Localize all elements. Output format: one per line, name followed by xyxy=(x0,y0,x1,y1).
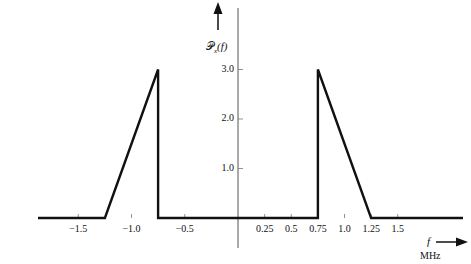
psd-curve xyxy=(38,70,463,219)
y-axis-symbol: 𝒫 xyxy=(206,40,214,52)
y-tick-label: 3.0 xyxy=(194,63,234,74)
x-tick-label: 0.75 xyxy=(309,223,327,234)
x-tick-label: 1.25 xyxy=(362,223,380,234)
x-axis-symbol: f xyxy=(427,235,430,247)
x-tick-label: −0.5 xyxy=(176,223,194,234)
x-tick-label: 1.5 xyxy=(392,223,405,234)
x-tick-label: 0.5 xyxy=(285,223,298,234)
x-axis-unit: MHz xyxy=(420,250,441,261)
x-tick-label: 0.25 xyxy=(256,223,274,234)
y-tick-label: 1.0 xyxy=(194,162,234,173)
y-tick-label: 2.0 xyxy=(194,112,234,123)
y-axis-argument: (f) xyxy=(217,40,227,52)
y-axis-label: 𝒫x(f) xyxy=(206,40,228,55)
x-tick-label: −1.0 xyxy=(122,223,140,234)
x-tick-label: −1.5 xyxy=(69,223,87,234)
x-tick-label: 1.0 xyxy=(338,223,351,234)
